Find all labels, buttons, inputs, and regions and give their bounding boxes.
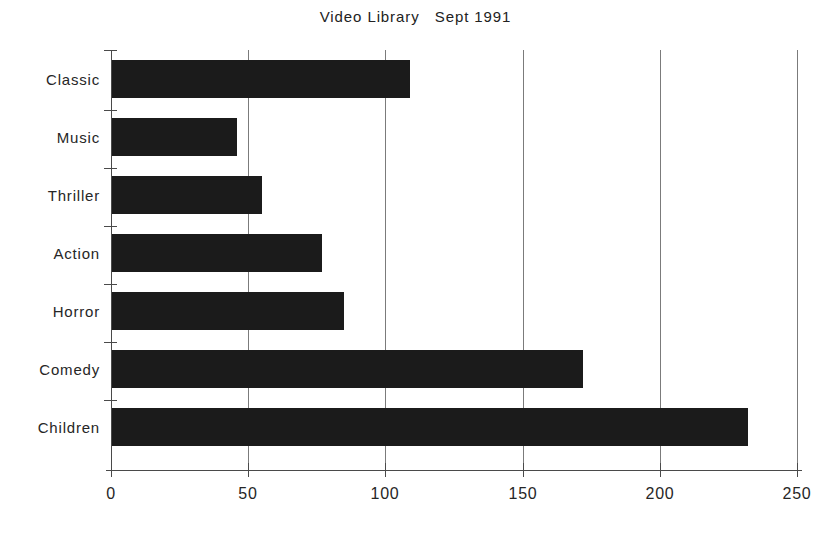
bar-horror: [111, 292, 344, 330]
x-axis-tick: [660, 463, 661, 477]
bar-comedy: [111, 350, 583, 388]
gridline-250: [797, 50, 798, 470]
bar-action: [111, 234, 322, 272]
x-axis-tick: [797, 463, 798, 477]
y-axis-label-thriller: Thriller: [0, 187, 100, 204]
chart-title: Video Library Sept 1991: [0, 8, 831, 25]
y-axis-label-children: Children: [0, 419, 100, 436]
y-axis-tick: [104, 50, 117, 51]
y-axis-label-classic: Classic: [0, 71, 100, 88]
bar-classic: [111, 60, 410, 98]
gridline-100: [385, 50, 386, 470]
x-axis-tick-label-100: 100: [340, 485, 430, 503]
bar-chart: Video Library Sept 1991 Classic Music Th…: [0, 0, 831, 536]
x-axis-line: [106, 470, 802, 471]
y-axis-line: [111, 50, 112, 470]
y-axis-label-comedy: Comedy: [0, 361, 100, 378]
x-axis-tick: [523, 463, 524, 477]
y-axis-tick: [104, 110, 117, 111]
plot-area: [111, 50, 797, 470]
bar-children: [111, 408, 748, 446]
bar-thriller: [111, 176, 262, 214]
x-axis-tick: [111, 463, 112, 477]
gridline-150: [523, 50, 524, 470]
x-axis-tick-label-200: 200: [615, 485, 705, 503]
y-axis-tick: [104, 284, 117, 285]
x-axis-tick: [385, 463, 386, 477]
y-axis-label-action: Action: [0, 245, 100, 262]
x-axis-tick-label-0: 0: [66, 485, 156, 503]
gridline-200: [660, 50, 661, 470]
bar-music: [111, 118, 237, 156]
y-axis-label-horror: Horror: [0, 303, 100, 320]
y-axis-label-music: Music: [0, 129, 100, 146]
y-axis-tick: [104, 226, 117, 227]
x-axis-tick-label-250: 250: [752, 485, 831, 503]
y-axis-tick: [104, 342, 117, 343]
x-axis-tick: [248, 463, 249, 477]
x-axis-tick-label-150: 150: [478, 485, 568, 503]
y-axis-tick: [104, 168, 117, 169]
y-axis-tick: [104, 400, 117, 401]
x-axis-tick-label-50: 50: [203, 485, 293, 503]
